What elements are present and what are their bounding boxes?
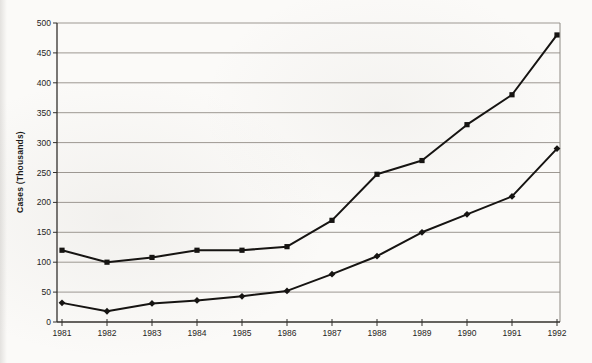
data-point-marker-square xyxy=(104,260,109,265)
data-point-marker-diamond xyxy=(239,293,246,300)
x-tick-label: 1982 xyxy=(98,328,117,338)
data-point-marker-square xyxy=(374,172,379,177)
data-point-marker-square xyxy=(194,248,199,253)
data-point-marker-square xyxy=(464,122,469,127)
y-tick-label: 150 xyxy=(37,227,51,237)
data-point-marker-diamond xyxy=(284,288,291,295)
scan-edge-shadow xyxy=(0,0,7,363)
data-point-marker-diamond xyxy=(59,299,66,306)
x-tick-label: 1981 xyxy=(53,328,72,338)
y-tick-label: 500 xyxy=(37,18,51,28)
x-tick-label: 1990 xyxy=(458,328,477,338)
data-point-marker-square xyxy=(284,244,289,249)
y-tick-label: 100 xyxy=(37,257,51,267)
x-tick-label: 1991 xyxy=(503,328,522,338)
line-chart: 0501001502002503003504004505001981198219… xyxy=(0,0,592,363)
y-axis-title: Cases (Thousands) xyxy=(15,72,27,272)
x-tick-label: 1987 xyxy=(323,328,342,338)
data-point-marker-square xyxy=(59,248,64,253)
data-point-marker-square xyxy=(509,92,514,97)
data-point-marker-square xyxy=(329,218,334,223)
upper-series-line xyxy=(62,35,557,262)
y-tick-label: 200 xyxy=(37,197,51,207)
y-tick-label: 450 xyxy=(37,48,51,58)
data-point-marker-square xyxy=(554,32,559,37)
x-tick-label: 1989 xyxy=(413,328,432,338)
x-tick-label: 1983 xyxy=(143,328,162,338)
x-tick-label: 1988 xyxy=(368,328,387,338)
x-tick-label: 1985 xyxy=(233,328,252,338)
data-point-marker-diamond xyxy=(329,271,336,278)
y-tick-label: 50 xyxy=(42,287,52,297)
scanned-chart-page: Cases (Thousands) 0501001502002503003504… xyxy=(0,0,592,363)
x-tick-label: 1986 xyxy=(278,328,297,338)
data-point-marker-square xyxy=(149,255,154,260)
data-point-marker-square xyxy=(419,158,424,163)
data-point-marker-diamond xyxy=(194,297,201,304)
data-point-marker-diamond xyxy=(149,300,156,307)
data-point-marker-diamond xyxy=(104,308,111,315)
data-point-marker-square xyxy=(239,248,244,253)
y-tick-label: 0 xyxy=(46,317,51,327)
x-tick-label: 1984 xyxy=(188,328,207,338)
y-tick-label: 300 xyxy=(37,138,51,148)
y-tick-label: 250 xyxy=(37,168,51,178)
y-tick-label: 350 xyxy=(37,108,51,118)
x-tick-label: 1992 xyxy=(548,328,567,338)
data-point-marker-diamond xyxy=(464,211,471,218)
y-tick-label: 400 xyxy=(37,78,51,88)
